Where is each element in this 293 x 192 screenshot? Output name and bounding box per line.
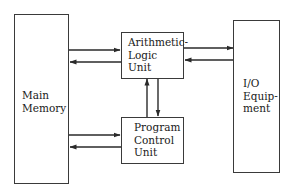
- pcu-label-line-1: Program: [134, 121, 180, 134]
- io-label-line-2: Equip-: [243, 90, 278, 103]
- program-control-unit-label: Program Control Unit: [134, 121, 180, 159]
- io-label-line-1: I/O: [243, 77, 278, 90]
- io-equipment-label: I/O Equip- ment: [243, 77, 278, 115]
- alu-box: Arithmetic- Logic Unit: [121, 32, 184, 79]
- main-memory-label: Main Memory: [22, 89, 66, 114]
- pcu-label-line-2: Control: [134, 134, 180, 147]
- io-label-line-3: ment: [243, 102, 278, 115]
- alu-label-line-1: Arithmetic-: [128, 36, 188, 49]
- main-memory-label-line-2: Memory: [22, 102, 66, 115]
- main-memory-label-line-1: Main: [22, 89, 66, 102]
- main-memory-box: Main Memory: [14, 14, 69, 184]
- pcu-label-line-3: Unit: [134, 146, 180, 159]
- alu-label-line-2: Logic: [128, 49, 188, 62]
- alu-label: Arithmetic- Logic Unit: [128, 36, 188, 74]
- program-control-unit-box: Program Control Unit: [121, 117, 184, 164]
- io-equipment-box: I/O Equip- ment: [233, 20, 280, 173]
- alu-label-line-3: Unit: [128, 61, 188, 74]
